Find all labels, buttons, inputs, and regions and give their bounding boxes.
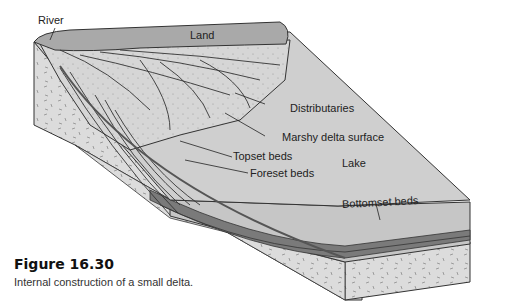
label-distributaries: Distributaries	[290, 103, 354, 114]
figure-caption: Internal construction of a small delta.	[14, 276, 193, 288]
figure-title: Figure 16.30	[14, 256, 114, 272]
label-marshy-delta-surface: Marshy delta surface	[282, 132, 384, 143]
label-river: River	[38, 15, 64, 26]
label-land: Land	[190, 30, 214, 41]
label-foreset-beds: Foreset beds	[250, 168, 314, 179]
label-topset-beds: Topset beds	[233, 151, 292, 162]
label-lake: Lake	[342, 158, 366, 169]
